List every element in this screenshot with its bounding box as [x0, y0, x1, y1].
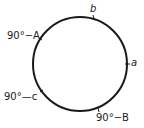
label-90-minus-A: 90°−A: [7, 31, 40, 41]
label-90-minus-B: 90°−B: [96, 113, 129, 123]
napier-circle: [33, 17, 127, 111]
diagram-canvas: [0, 0, 144, 128]
label-b: b: [90, 4, 96, 14]
label-a: a: [131, 58, 137, 68]
label-90-minus-c: 90°—c: [4, 92, 37, 102]
